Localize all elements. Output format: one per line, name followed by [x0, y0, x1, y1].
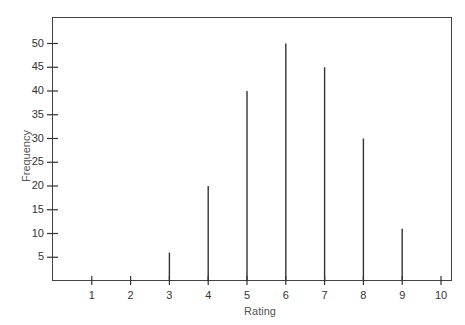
- y-tick-label: 10: [20, 227, 44, 239]
- x-tick-label: 1: [82, 289, 102, 301]
- x-tick-label: 10: [431, 289, 451, 301]
- y-tick-label: 40: [20, 84, 44, 96]
- y-tick-label: 15: [20, 203, 44, 215]
- x-tick-label: 3: [159, 289, 179, 301]
- x-axis-label: Rating: [230, 305, 290, 317]
- x-tick-label: 2: [121, 289, 141, 301]
- plot-area: [0, 0, 465, 325]
- frequency-chart: 5101520253035404550 12345678910 Frequenc…: [0, 0, 465, 325]
- x-tick-label: 9: [392, 289, 412, 301]
- y-tick-label: 50: [20, 37, 44, 49]
- y-tick-label: 5: [20, 250, 44, 262]
- y-tick-label: 35: [20, 108, 44, 120]
- x-tick-label: 6: [276, 289, 296, 301]
- y-tick-label: 45: [20, 60, 44, 72]
- x-tick-label: 8: [353, 289, 373, 301]
- x-tick-label: 7: [315, 289, 335, 301]
- y-axis-label: Frequency: [20, 126, 32, 186]
- x-tick-label: 5: [237, 289, 257, 301]
- x-tick-label: 4: [198, 289, 218, 301]
